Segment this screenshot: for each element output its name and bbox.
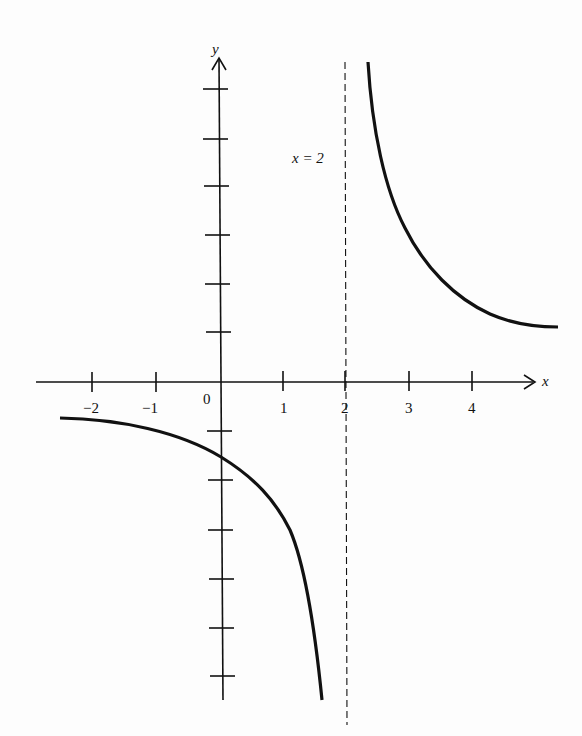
x-tick-label: 4 <box>468 400 476 416</box>
y-axis <box>219 59 223 700</box>
origin-label: 0 <box>203 391 211 407</box>
x-tick-label: −2 <box>83 400 99 416</box>
y-axis-label: y <box>210 41 219 57</box>
left-branch-curve <box>60 418 322 700</box>
right-branch-curve <box>368 62 558 327</box>
asymptote-label: x = 2 <box>291 150 324 166</box>
asymptote-line <box>345 62 347 725</box>
x-tick-label: 3 <box>405 400 413 416</box>
x-axis-label: x <box>541 373 549 389</box>
x-tick-label: −1 <box>142 400 158 416</box>
x-tick-label: 2 <box>341 400 349 416</box>
chart: y x 0 −2 −1 1 2 3 4 x = 2 <box>0 0 582 736</box>
x-tick-label: 1 <box>280 400 288 416</box>
